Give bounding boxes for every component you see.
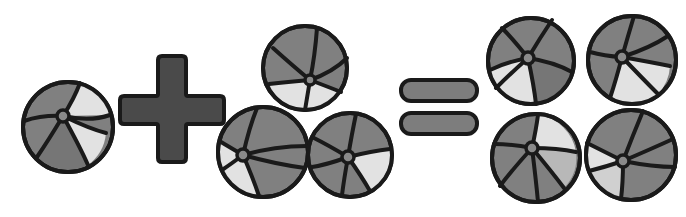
ball-c1[interactable]	[484, 14, 580, 110]
ball-b3[interactable]	[304, 109, 398, 203]
ball-c4[interactable]	[581, 105, 681, 205]
equals-bar-top	[401, 80, 477, 101]
ball-b2[interactable]	[213, 102, 313, 202]
equation-canvas	[0, 0, 686, 217]
ball-c2[interactable]	[584, 12, 682, 110]
equals-sign-icon	[397, 76, 481, 140]
equals-bar-bottom	[401, 113, 477, 134]
ball-c3[interactable]	[488, 110, 586, 208]
ball-a1[interactable]	[18, 77, 118, 177]
